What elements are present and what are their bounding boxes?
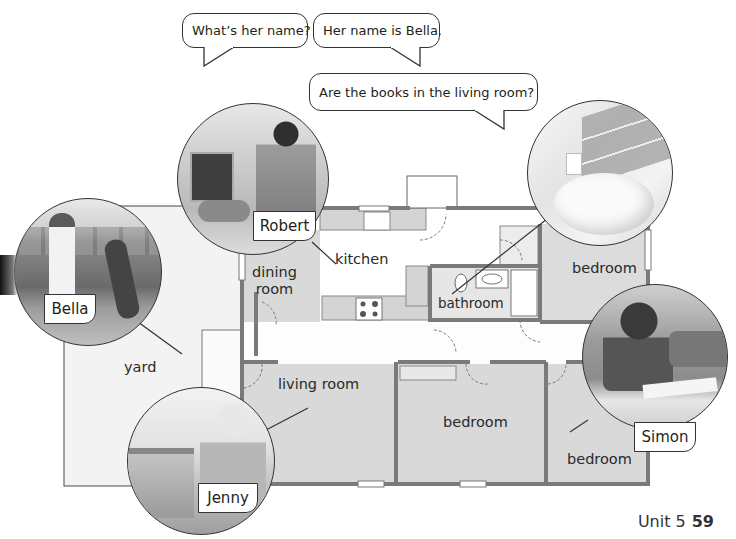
dining-line-2: room bbox=[252, 281, 297, 298]
speech-tail bbox=[470, 109, 510, 133]
speech-tail bbox=[386, 46, 426, 70]
label-dining-room: dining room bbox=[252, 264, 297, 297]
fence-shape bbox=[15, 227, 162, 255]
dog-shape bbox=[198, 200, 250, 222]
nametag-simon: Simon bbox=[634, 422, 696, 452]
speech-text: Her name is Bella. bbox=[323, 24, 442, 37]
person-simon-shape bbox=[603, 301, 673, 391]
oven-shape bbox=[190, 152, 234, 202]
name-robert: Robert bbox=[260, 217, 310, 235]
person-robert-shape bbox=[256, 120, 316, 220]
sink-basin-shape bbox=[554, 173, 654, 235]
toothbrush-cup-shape bbox=[566, 153, 582, 175]
label-bedroom-middle: bedroom bbox=[443, 414, 508, 431]
bed-shape bbox=[669, 331, 728, 367]
photo-bella-yard bbox=[14, 198, 162, 346]
speech-text: Are the books in the living room? bbox=[319, 86, 534, 99]
page-number: 59 bbox=[692, 512, 714, 531]
label-bedroom-top-right: bedroom bbox=[572, 260, 637, 277]
page-edge-shadow bbox=[0, 255, 18, 295]
speech-bubble-her-name-is-bella: Her name is Bella. bbox=[313, 13, 440, 48]
stove bbox=[356, 298, 382, 320]
photo-simon-bedroom bbox=[582, 284, 728, 430]
speech-tail bbox=[200, 46, 240, 70]
fish-tank-shape bbox=[128, 448, 194, 518]
name-simon: Simon bbox=[642, 428, 689, 446]
nametag-jenny: Jenny bbox=[198, 483, 258, 513]
label-living-room: living room bbox=[278, 376, 359, 393]
speech-bubble-whats-her-name: What’s her name? bbox=[182, 13, 308, 48]
dining-line-1: dining bbox=[252, 264, 297, 281]
nametag-robert: Robert bbox=[253, 211, 316, 241]
photo-bathroom-sink bbox=[527, 100, 673, 246]
nametag-bella: Bella bbox=[44, 294, 96, 324]
name-bella: Bella bbox=[51, 300, 88, 318]
label-bathroom: bathroom bbox=[438, 296, 504, 312]
label-bedroom-bottom-right: bedroom bbox=[567, 451, 632, 468]
label-kitchen: kitchen bbox=[335, 251, 388, 268]
speech-text: What’s her name? bbox=[192, 24, 311, 37]
label-yard: yard bbox=[124, 359, 156, 376]
name-jenny: Jenny bbox=[207, 489, 249, 507]
speech-bubble-books-question: Are the books in the living room? bbox=[309, 73, 538, 111]
unit-label: Unit 5 bbox=[638, 512, 686, 531]
page-footer: Unit 559 bbox=[638, 512, 714, 531]
